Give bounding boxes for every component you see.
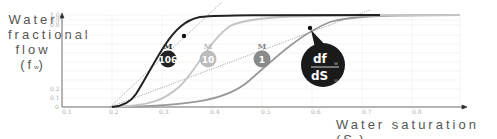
svg-text:M: M xyxy=(258,41,267,51)
badge-m10: M 10 xyxy=(200,41,217,68)
svg-text:0.2: 0.2 xyxy=(109,108,119,115)
tangent-point-m106 xyxy=(182,34,186,38)
svg-text:M: M xyxy=(164,41,173,51)
y-tick-labels: 1.0 0.9 0.8 0.2 0.1 0 xyxy=(50,11,60,110)
svg-text:10: 10 xyxy=(202,55,215,65)
badge-m1: M 1 xyxy=(254,41,271,68)
svg-text:0.8: 0.8 xyxy=(50,21,60,28)
svg-text:0.1: 0.1 xyxy=(50,94,60,101)
svg-text:0.3: 0.3 xyxy=(159,108,169,115)
svg-text:0.7: 0.7 xyxy=(362,108,372,115)
svg-text:106: 106 xyxy=(159,55,178,65)
svg-text:M: M xyxy=(204,41,213,51)
svg-text:0.5: 0.5 xyxy=(261,108,271,115)
derivative-callout: df w dS w xyxy=(301,30,345,87)
svg-text:w: w xyxy=(334,77,338,83)
svg-text:0.8: 0.8 xyxy=(412,108,422,115)
svg-text:0.2: 0.2 xyxy=(50,85,60,92)
svg-text:df: df xyxy=(313,52,328,66)
svg-text:0.4: 0.4 xyxy=(210,108,220,115)
svg-text:0.6: 0.6 xyxy=(311,108,321,115)
svg-text:0: 0 xyxy=(55,103,59,110)
x-tick-labels: 0.1 0.2 0.3 0.4 0.5 0.6 0.7 0.8 xyxy=(62,108,422,115)
svg-text:1: 1 xyxy=(259,55,265,65)
badge-m106: M 106 xyxy=(159,41,178,68)
svg-text:w: w xyxy=(334,60,338,66)
svg-text:dS: dS xyxy=(311,69,328,83)
svg-text:0.1: 0.1 xyxy=(62,108,72,115)
x-axis-label: Water saturation (Sw) xyxy=(336,117,497,139)
tangent-point-m1 xyxy=(308,26,312,30)
